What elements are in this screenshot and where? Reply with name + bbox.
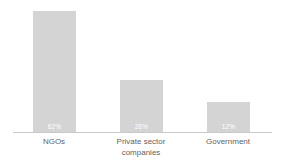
x-axis-category-labels: NGOs Private sector companies Government (0, 136, 286, 167)
bar-value-label-government: 12% (207, 123, 250, 131)
category-label-ngos-line1: NGOs (8, 136, 100, 147)
bar-value-label-ngos: 62% (33, 123, 76, 131)
bar-ngos[interactable] (33, 11, 76, 133)
category-label-private-sector-companies-line2: companies (95, 147, 187, 158)
category-label-private-sector-companies: Private sector companies (95, 136, 187, 158)
bar-chart: 62% 26% 12% NGOs Private sector companie… (0, 0, 286, 167)
bar-value-label-private-sector-companies: 26% (120, 123, 163, 131)
category-label-ngos: NGOs (8, 136, 100, 147)
x-axis-line (13, 132, 272, 133)
plot-area: 62% 26% 12% (0, 0, 286, 133)
category-label-government: Government (182, 136, 274, 147)
category-label-government-line1: Government (182, 136, 274, 147)
category-label-private-sector-companies-line1: Private sector (95, 136, 187, 147)
